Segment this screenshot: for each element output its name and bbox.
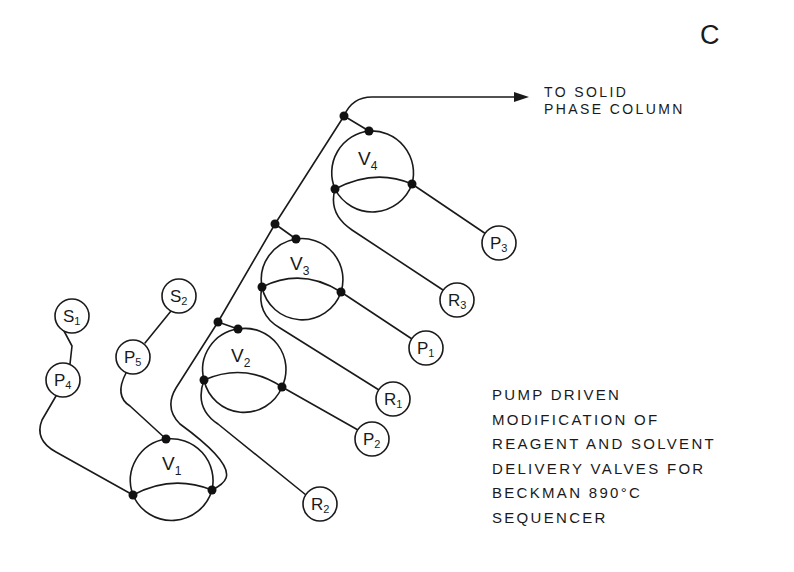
valve-v4-label: V4 <box>358 148 378 173</box>
port-p5: P5 <box>116 340 150 374</box>
valve-v2-label: V2 <box>231 345 251 370</box>
valve-port-node <box>234 325 243 334</box>
valve-v3: V3 <box>261 239 343 320</box>
valve-port-node <box>162 435 171 444</box>
valve-port-node <box>331 185 340 194</box>
tube-v2-p2 <box>282 387 358 430</box>
tube-v3-r1 <box>261 287 379 390</box>
valve-port-node <box>200 376 209 385</box>
port-r3: R3 <box>440 283 474 317</box>
valve-v2: V2 <box>203 328 286 412</box>
valve-port-node <box>365 127 374 136</box>
port-p1: P1 <box>409 331 443 365</box>
valve-port-node <box>408 180 417 189</box>
tube-p5-v1 <box>121 373 166 439</box>
tube-v4-r3 <box>333 189 443 290</box>
port-p4: P4 <box>46 363 80 397</box>
valve-port-node <box>337 288 346 297</box>
valve-port-node <box>258 283 267 292</box>
tube-p4-v1 <box>40 396 133 495</box>
valve-v3-label: V3 <box>290 253 310 278</box>
valve-v4: V4 <box>332 131 414 212</box>
port-r1: R1 <box>376 382 410 416</box>
port-s1: S1 <box>55 299 89 333</box>
junction-node <box>271 220 280 229</box>
port-s2: S2 <box>162 279 196 313</box>
port-p2: P2 <box>355 422 389 456</box>
tube-v3-p1 <box>341 292 412 339</box>
manifold-backbone <box>171 116 344 490</box>
tube-v4-p3 <box>412 184 486 234</box>
tube-s2-p5 <box>145 311 171 343</box>
output-line <box>344 92 529 116</box>
tube-s1-p4 <box>64 331 72 364</box>
valve-v1-label: V1 <box>162 453 182 478</box>
valve-schematic: V4 V3 V2 V1 <box>0 0 794 572</box>
valve-port-node <box>278 383 287 392</box>
port-r2: R2 <box>303 487 337 521</box>
junction-node <box>340 112 349 121</box>
junction-node <box>214 318 223 327</box>
arrowhead-icon <box>514 92 529 102</box>
valve-v1: V1 <box>130 439 213 521</box>
port-p3: P3 <box>482 226 516 260</box>
valve-port-node <box>208 486 217 495</box>
valve-port-node <box>292 235 301 244</box>
valve-port-node <box>129 491 138 500</box>
tube-v2-r2 <box>201 380 306 495</box>
